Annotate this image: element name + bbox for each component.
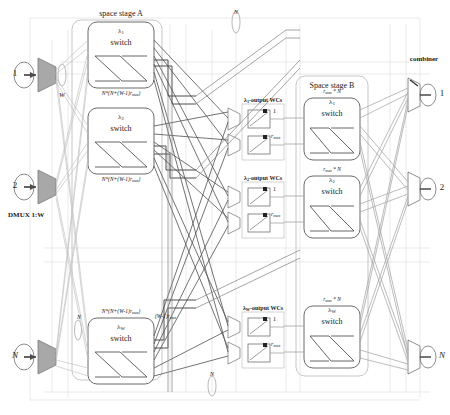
wc-cell-1-rmax-label: rmax [271,133,280,139]
wc-cell-2-rmax-label: rmax [271,211,280,217]
bundle-n-bottom-label: N [210,371,214,377]
stage-b-switch-2-lambda: λ2 [329,177,335,184]
stage-a-heading: space stage A [99,10,143,18]
output-combiner-2 [408,172,436,206]
lambda-subscript: W [120,326,125,331]
output-port-1-label: 1 [440,89,445,98]
bundle-n-top-label: N [234,9,238,15]
input-demux-N [14,340,56,374]
stage-b-switch-1-word: switch [322,110,343,118]
stage-b-switch-W-size: rmax * N [323,297,341,303]
lambda-subscript: 2 [121,116,123,121]
stage-b-switch-1-lambda: λ1 [329,99,335,106]
stage-a-switch-W-lambda: λW [117,324,125,331]
combiner-label: combiner [410,56,438,63]
wc-cell-1-rmax [248,135,270,154]
stage-a-switch-2-size: N*(N+(W-1)rmax) [102,177,141,183]
stage-b-switch-box-2 [304,176,360,238]
input-demux-2 [14,170,56,204]
input-port-1-label: 1 [13,69,18,78]
stage-a-switch-1-size: N*(N+(W-1)rmax) [102,91,141,97]
stage-b-switch-2-size: rmax * N [323,167,341,173]
output-combiner-1 [408,78,436,112]
wc-cell-W-1 [248,317,270,336]
diagram-canvas [0,0,450,415]
bundle-n-left-label: N [77,314,81,320]
stage-a-switch-1-word: switch [111,39,132,47]
stage-b-switch-box-W [304,306,360,368]
wc-cell-2-1 [248,187,270,206]
stage-a-switch-W-size: N*(N+(W-1)rmax) [102,309,141,315]
wc-cell-W-rmax [248,343,270,362]
wc-input-collectors [228,108,240,364]
stage-a-switch-2-lambda: λ2 [118,114,124,121]
stage-a-to-wc-links [154,40,228,376]
stage-b-switch-1-size: rmax * N [323,89,341,95]
output-port-N-label: N [439,351,445,360]
input-port-2-label: 2 [13,181,18,190]
input-port-N-label: N [12,351,18,360]
optical-switch-diagram: space stage A Space stage B combiner DMU… [0,0,450,415]
stage-b-switch-2-word: switch [322,188,343,196]
stage-a-extra-size-label: (W-1)rmax [155,314,176,320]
wc-cell-1-1-label: 1 [273,108,276,114]
wc-cell-W-1-label: 1 [273,316,276,322]
stage-a-switch-W-word: switch [111,335,132,343]
stage-b-switch-W-lambda: λW [328,307,336,314]
stage-a-switch-1-lambda: λ1 [118,28,124,35]
wc-cell-2-rmax [248,213,270,232]
output-combiner-N [408,340,436,374]
stage-b-switch-W-word: switch [322,318,343,326]
stage-b-to-combiner-links [360,88,408,370]
demux-w-label: W [59,92,65,99]
lambda-subscript: 1 [121,30,123,35]
wc-cell-W-rmax-label: rmax [271,341,280,347]
input-demux-1 [14,58,66,92]
stage-a-switch-2-word: switch [111,125,132,133]
wc-group-2-heading: λ2-output WCs [244,175,282,181]
dmux-label: DMUX 1:W [8,212,44,219]
output-port-2-label: 2 [440,183,445,192]
stage-b-switch-box-1 [304,98,360,160]
wc-group-W-heading: λW-output WCs [243,305,283,311]
wc-group-1-heading: λ1-output WCs [244,97,282,103]
wc-cell-2-1-label: 1 [273,186,276,192]
